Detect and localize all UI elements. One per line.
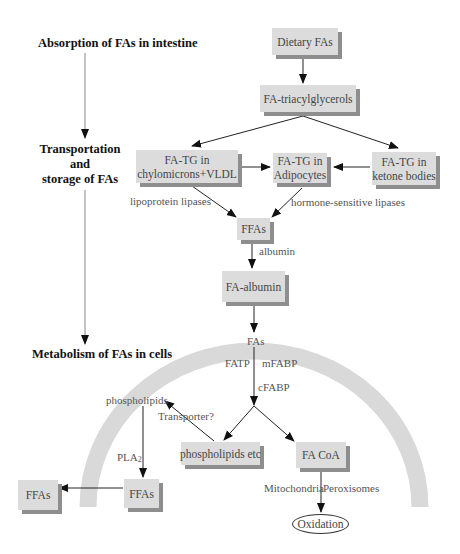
- stage-transport-line1: Transportation and: [28, 142, 132, 172]
- node-fa-triacylglycerols: FA-triacylglycerols: [260, 85, 356, 112]
- label-pla2: PLA2: [117, 451, 142, 465]
- node-ffas-plasma: FFAs: [237, 218, 270, 240]
- node-text-line: Adipocytes: [274, 168, 326, 182]
- label-pla-subscript: 2: [138, 455, 142, 464]
- node-text-line: ketone bodies: [372, 169, 436, 183]
- node-dietary-fas: Dietary FAs: [272, 28, 338, 55]
- label-pla-text: PLA: [117, 451, 138, 463]
- label-phospholipids: phospholipids: [106, 394, 168, 407]
- node-phospholipids-etc: phospholipids etc: [181, 442, 260, 465]
- node-oxidation: Oxidation: [292, 514, 349, 534]
- stage-metabolism: Metabolism of FAs in cells: [32, 347, 172, 362]
- label-cfabp: cFABP: [258, 381, 290, 394]
- label-hormone-sensitive-lipases: hormone-sensitive lipases: [291, 196, 405, 209]
- node-fa-coa: FA CoA: [296, 442, 346, 468]
- label-mitochondria: Mitochondria: [264, 482, 324, 495]
- node-ffas-outer: FFAs: [18, 480, 58, 510]
- label-albumin: albumin: [259, 245, 295, 258]
- label-transporter: Transporter?: [158, 410, 214, 423]
- node-fa-tg-chylomicrons: FA-TG in chylomicrons+VLDL: [136, 150, 238, 183]
- label-mfabp: mFABP: [262, 357, 297, 370]
- node-fa-albumin: FA-albumin: [222, 271, 285, 302]
- label-peroxisomes: Peroxisomes: [323, 482, 379, 495]
- node-fa-tg-ketone-bodies: FA-TG in ketone bodies: [372, 152, 436, 185]
- node-ffas-inner: FFAs: [124, 479, 159, 508]
- stage-transport: Transportation and storage of FAs: [28, 142, 132, 187]
- node-fa-tg-adipocytes: FA-TG in Adipocytes: [273, 153, 327, 183]
- node-text-line: FA-TG in: [278, 154, 323, 168]
- label-lipoprotein-lipases: lipoprotein lipases: [130, 195, 211, 208]
- stage-absorption: Absorption of FAs in intestine: [38, 36, 198, 51]
- fatty-acid-pathway-diagram: Absorption of FAs in intestine Transport…: [0, 0, 460, 554]
- stage-transport-line2: storage of FAs: [28, 172, 132, 187]
- node-text-line: chylomicrons+VLDL: [137, 167, 237, 181]
- label-fatp: FATP: [225, 357, 250, 370]
- label-fas: FAs: [247, 335, 265, 348]
- node-text-line: FA-TG in: [382, 155, 427, 169]
- node-text-line: FA-TG in: [165, 153, 210, 167]
